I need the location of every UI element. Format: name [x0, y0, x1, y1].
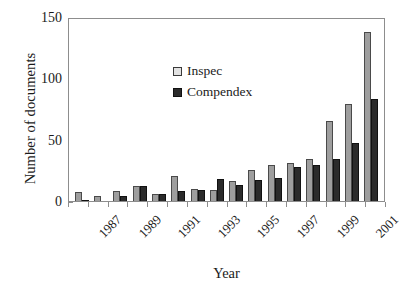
bar-group: [246, 19, 265, 201]
x-axis-tick-mark: [326, 202, 327, 207]
y-axis-title: Number of documents: [22, 19, 39, 219]
bar-inspec-2000: [326, 121, 333, 201]
x-axis-tick-mark: [306, 202, 307, 207]
bar-inspec-1987: [75, 192, 82, 201]
x-axis-tick-mark: [266, 202, 267, 207]
bar-inspec-1997: [268, 165, 275, 201]
bar-compendex-1999: [313, 165, 320, 201]
x-axis-tick-mark: [365, 202, 366, 207]
x-axis-tick-label: 1991: [175, 212, 204, 241]
bar-inspec-1999: [306, 159, 313, 201]
bar-inspec-2001: [345, 104, 352, 201]
bar-chart-figure: Number of documents 050100150 Inspec Com…: [0, 0, 407, 297]
legend: Inspec Compendex: [173, 63, 252, 105]
bar-group: [72, 19, 91, 201]
bar-inspec-2002: [364, 32, 371, 201]
bar-group: [284, 19, 303, 201]
bar-group: [342, 19, 361, 201]
bar-compendex-1996: [255, 180, 262, 201]
bar-group: [304, 19, 323, 201]
legend-label-compendex: Compendex: [187, 84, 252, 100]
legend-swatch-compendex-icon: [173, 88, 182, 97]
y-axis-tick-label: 50: [0, 134, 68, 148]
legend-swatch-inspec-icon: [173, 67, 182, 76]
x-axis-tick-label: 1989: [135, 212, 164, 241]
bar-compendex-1994: [217, 179, 224, 201]
bar-group: [111, 19, 130, 201]
bar-inspec-1993: [191, 189, 198, 201]
bar-compendex-1995: [236, 185, 243, 201]
x-axis-tick-mark: [227, 202, 228, 207]
bar-inspec-1992: [171, 176, 178, 201]
x-axis-tick-mark: [286, 202, 287, 207]
bar-compendex-1990: [140, 186, 147, 201]
legend-item-compendex: Compendex: [173, 84, 252, 100]
bar-group: [323, 19, 342, 201]
bar-series-container: [69, 19, 384, 201]
x-axis-tick-mark: [385, 202, 386, 207]
bar-group: [188, 19, 207, 201]
x-axis-tick-label: 2001: [373, 212, 402, 241]
bar-compendex-1998: [294, 167, 301, 201]
x-axis-tick-labels: 19871989199119931995199719992001: [68, 208, 385, 254]
bar-group: [207, 19, 226, 201]
bar-compendex-1993: [198, 190, 205, 201]
bar-inspec-1998: [287, 163, 294, 201]
bar-group: [149, 19, 168, 201]
legend-label-inspec: Inspec: [187, 63, 222, 79]
bar-compendex-1997: [275, 178, 282, 201]
x-axis-tick-mark: [246, 202, 247, 207]
bar-inspec-1990: [133, 186, 140, 201]
y-axis-tick-label: 150: [0, 11, 68, 25]
bar-group: [91, 19, 110, 201]
x-axis-tick-label: 1987: [95, 212, 124, 241]
bar-group: [227, 19, 246, 201]
x-axis-title: Year: [68, 265, 385, 282]
bar-compendex-1991: [159, 194, 166, 201]
x-axis-tick-mark: [345, 202, 346, 207]
x-axis-tick-mark: [68, 202, 69, 207]
bar-group: [130, 19, 149, 201]
bar-compendex-2001: [352, 143, 359, 201]
bar-compendex-1992: [178, 191, 185, 201]
legend-item-inspec: Inspec: [173, 63, 252, 79]
x-axis-tick-label: 1999: [333, 212, 362, 241]
x-axis-tick-mark: [108, 202, 109, 207]
bar-inspec-1989: [113, 191, 120, 201]
bar-compendex-1989: [120, 196, 127, 201]
bar-compendex-2002: [371, 99, 378, 201]
x-axis-tick-mark: [147, 202, 148, 207]
x-axis-tick-mark: [127, 202, 128, 207]
plot-area: Inspec Compendex: [68, 18, 385, 202]
x-axis-tick-mark: [207, 202, 208, 207]
bar-inspec-1994: [210, 190, 217, 201]
x-axis-tick-label: 1993: [214, 212, 243, 241]
y-axis-tick-label: 0: [0, 195, 68, 209]
bar-group: [362, 19, 381, 201]
bar-inspec-1991: [152, 194, 159, 201]
x-axis-tick-mark: [88, 202, 89, 207]
bar-inspec-1995: [229, 181, 236, 201]
bar-group: [169, 19, 188, 201]
bar-compendex-2000: [333, 159, 340, 201]
x-axis-tick-mark: [187, 202, 188, 207]
x-axis-tick-label: 1997: [294, 212, 323, 241]
y-axis-tick-label: 100: [0, 72, 68, 86]
bar-inspec-1988: [94, 196, 101, 201]
bar-compendex-1987: [82, 200, 89, 201]
x-axis-tick-label: 1995: [254, 212, 283, 241]
bar-group: [265, 19, 284, 201]
x-axis-tick-mark: [167, 202, 168, 207]
bar-inspec-1996: [248, 170, 255, 201]
